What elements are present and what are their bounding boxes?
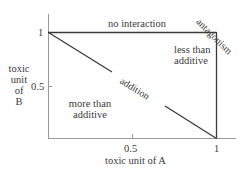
less-than-additive-line: less than bbox=[174, 44, 210, 55]
less-than-additive-line: additive bbox=[174, 55, 210, 66]
y-tick-label-1: 1 bbox=[38, 27, 43, 38]
more-than-additive-line: additive bbox=[62, 109, 118, 120]
x-tick-label-1: 1 bbox=[214, 143, 219, 154]
y-axis-label-line: B bbox=[4, 96, 34, 107]
x-axis-label: toxic unit of A bbox=[105, 155, 166, 166]
y-axis-label-line: toxic bbox=[4, 63, 34, 74]
less-than-additive-label: less than additive bbox=[174, 44, 210, 66]
y-axis-label-line: of bbox=[4, 85, 34, 96]
more-than-additive-line: more than bbox=[62, 98, 118, 109]
y-axis-label: toxic unit of B bbox=[4, 63, 34, 107]
y-axis-label-line: unit bbox=[4, 74, 34, 85]
addition-line-upper bbox=[49, 33, 113, 73]
addition-line-lower bbox=[165, 106, 217, 139]
no-interaction-label: no interaction bbox=[108, 18, 166, 29]
more-than-additive-label: more than additive bbox=[62, 98, 118, 120]
x-tick-label-0.5: 0.5 bbox=[124, 143, 137, 154]
